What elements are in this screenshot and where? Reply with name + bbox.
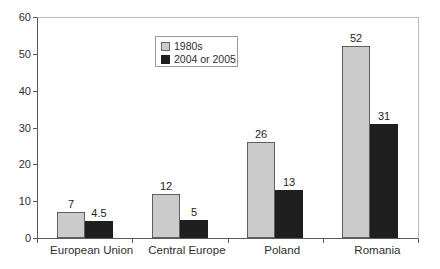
value-label-1980s-romania: 52 (334, 32, 378, 44)
x-axis-tick-0 (37, 239, 38, 243)
bar-chart-figure: 1980s2004 or 2005 010203040506071226524.… (0, 0, 440, 269)
y-tick-label-40: 40 (1, 85, 31, 97)
bar-2004-or-2005-romania (370, 124, 398, 238)
y-axis-tick-60 (33, 17, 37, 18)
legend-swatch-2004-or-2005-icon (161, 55, 170, 64)
value-label-2004-or-2005-poland: 13 (267, 176, 311, 188)
y-tick-label-20: 20 (1, 158, 31, 170)
y-tick-label-30: 30 (1, 122, 31, 134)
value-label-1980s-poland: 26 (239, 128, 283, 140)
x-label-romania: Romania (322, 244, 432, 257)
y-axis-tick-10 (33, 201, 37, 202)
x-label-poland: Poland (227, 244, 337, 257)
bar-2004-or-2005-poland (275, 190, 303, 238)
legend-item-2004-or-2005: 2004 or 2005 (161, 53, 237, 65)
y-axis-tick-50 (33, 54, 37, 55)
x-axis-tick-4 (418, 239, 419, 243)
legend: 1980s2004 or 2005 (155, 36, 238, 67)
y-tick-label-10: 10 (1, 195, 31, 207)
x-label-central-europe: Central Europe (132, 244, 242, 257)
x-axis-tick-1 (132, 239, 133, 243)
y-axis-tick-40 (33, 91, 37, 92)
value-label-2004-or-2005-european-union: 4.5 (77, 207, 121, 219)
x-label-european-union: European Union (37, 244, 147, 257)
legend-item-1980s: 1980s (161, 40, 237, 52)
legend-label-2004-or-2005: 2004 or 2005 (174, 54, 236, 65)
y-tick-label-60: 60 (1, 11, 31, 23)
bar-2004-or-2005-central-europe (180, 220, 208, 238)
value-label-2004-or-2005-central-europe: 5 (172, 206, 216, 218)
x-axis-tick-2 (228, 239, 229, 243)
y-axis-tick-30 (33, 128, 37, 129)
bar-1980s-romania (342, 46, 370, 238)
y-tick-label-50: 50 (1, 48, 31, 60)
bar-2004-or-2005-european-union (85, 221, 113, 238)
value-label-2004-or-2005-romania: 31 (362, 110, 406, 122)
value-label-1980s-central-europe: 12 (144, 180, 188, 192)
legend-swatch-1980s-icon (161, 42, 170, 51)
legend-label-1980s: 1980s (174, 41, 203, 52)
y-axis-tick-20 (33, 164, 37, 165)
y-tick-label-0: 0 (1, 232, 31, 244)
x-axis-tick-3 (323, 239, 324, 243)
bar-1980s-poland (247, 142, 275, 238)
